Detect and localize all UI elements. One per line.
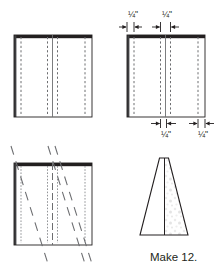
finished-triangle-unit-svg bbox=[128, 152, 223, 257]
panel-top-left bbox=[0, 26, 110, 126]
fabric-body bbox=[14, 35, 92, 117]
fabric-body bbox=[127, 35, 205, 117]
triangle-left-half bbox=[140, 158, 165, 235]
arrow-top-b-left bbox=[156, 25, 160, 29]
panel-bottom-left bbox=[0, 138, 110, 274]
strip-set-measured-svg bbox=[113, 0, 223, 140]
top-edge-shadow bbox=[127, 35, 205, 38]
diagram-canvas: ¼" ¼" ¼" ¼" bbox=[0, 0, 223, 274]
arrow-bottom-c-left bbox=[156, 122, 160, 126]
arrow-bottom-c-right bbox=[167, 122, 171, 126]
arrow-bottom-d-left bbox=[193, 122, 197, 126]
dim-label-bottom-left: ¼" bbox=[161, 130, 171, 139]
arrow-top-b-right bbox=[171, 25, 175, 29]
top-edge-shadow bbox=[14, 35, 92, 38]
arrow-top-a-left bbox=[122, 25, 126, 29]
figure-caption: Make 12. bbox=[150, 252, 197, 264]
strip-set-cutting-svg bbox=[0, 138, 110, 274]
arrow-top-a-right bbox=[134, 25, 138, 29]
panel-bottom-right bbox=[128, 152, 223, 257]
strip-set-plain-svg bbox=[0, 26, 110, 126]
panel-top-right bbox=[113, 0, 223, 140]
triangle-right-half bbox=[165, 158, 189, 235]
arrow-bottom-d-right bbox=[205, 122, 209, 126]
dim-label-bottom-right: ¼" bbox=[198, 130, 208, 139]
dim-label-top-right: ¼" bbox=[162, 10, 172, 19]
dim-label-top-left: ¼" bbox=[128, 10, 138, 19]
